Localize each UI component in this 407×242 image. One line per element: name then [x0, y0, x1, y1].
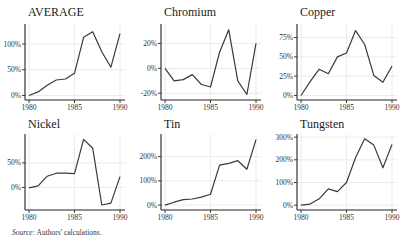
y-tick-label: 0%: [283, 91, 293, 100]
y-tick-label: 20%: [143, 39, 157, 48]
x-tick-label: 1990: [249, 103, 264, 112]
y-tick-label: 100%: [276, 178, 294, 187]
y-tick-label: 0%: [11, 91, 21, 100]
y-tick-label: -20%: [141, 89, 157, 98]
y-tick-label: 200%: [140, 152, 158, 161]
panel-title: Tin: [164, 117, 180, 131]
x-tick-label: 1985: [67, 213, 82, 222]
x-tick-label: 1985: [339, 213, 354, 222]
y-tick-label: 0%: [283, 201, 293, 210]
y-tick-label: 50%: [7, 158, 21, 167]
y-tick-label: 75%: [279, 33, 293, 42]
y-tick-label: 300%: [276, 133, 294, 142]
panel-title: Chromium: [164, 5, 217, 19]
x-tick-label: 1990: [113, 103, 128, 112]
x-tick-label: 1980: [22, 213, 37, 222]
panel-title: Tungsten: [300, 117, 344, 131]
y-tick-label: 25%: [279, 72, 293, 81]
chart-panel-nickel: Nickel0%50%198019851990: [7, 117, 128, 222]
source-label: Source:: [12, 228, 35, 237]
x-tick-label: 1985: [203, 103, 218, 112]
x-tick-label: 1980: [158, 213, 173, 222]
y-tick-label: 200%: [276, 155, 294, 164]
x-tick-label: 1990: [113, 213, 128, 222]
chart-panel-tin: Tin0%100%200%198019851990: [140, 117, 264, 222]
x-tick-label: 1985: [339, 103, 354, 112]
panel-title: Copper: [300, 5, 335, 19]
x-tick-label: 1980: [158, 103, 173, 112]
y-tick-label: 0%: [11, 183, 21, 192]
chart-panel-copper: Copper0%25%50%75%198019851990: [279, 5, 400, 112]
y-tick-label: 100%: [140, 176, 158, 185]
x-tick-label: 1980: [294, 213, 309, 222]
y-tick-label: 50%: [7, 65, 21, 74]
small-multiples-chart: AVERAGE0%50%100%198019851990 Chromium-20…: [0, 0, 407, 242]
panel-title: Nickel: [28, 117, 61, 131]
y-tick-label: 50%: [279, 52, 293, 61]
x-tick-label: 1980: [294, 103, 309, 112]
chart-panel-average: AVERAGE0%50%100%198019851990: [4, 5, 128, 112]
y-tick-label: 100%: [4, 40, 22, 49]
chart-panel-tungsten: Tungsten0%100%200%300%198019851990: [276, 117, 400, 222]
x-tick-label: 1980: [22, 103, 37, 112]
x-tick-label: 1990: [385, 213, 400, 222]
panel-title: AVERAGE: [28, 5, 84, 19]
x-tick-label: 1990: [385, 103, 400, 112]
x-tick-label: 1985: [67, 103, 82, 112]
source-note: Source: Authors' calculations.: [12, 228, 102, 237]
y-tick-label: 0%: [147, 201, 157, 210]
x-tick-label: 1990: [249, 213, 264, 222]
chart-panel-chromium: Chromium-20%0%20%198019851990: [141, 5, 264, 112]
source-text: Authors' calculations.: [37, 228, 102, 237]
x-tick-label: 1985: [203, 213, 218, 222]
y-tick-label: 0%: [147, 64, 157, 73]
